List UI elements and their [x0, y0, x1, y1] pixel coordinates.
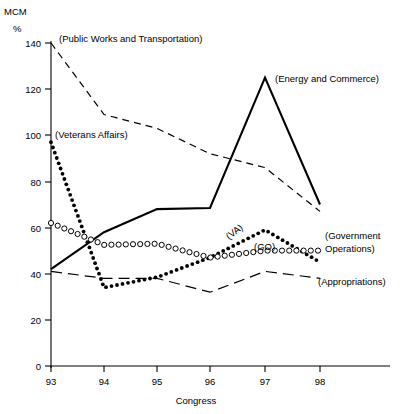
series-label-government-operations-1: (Government [325, 230, 381, 241]
axis-title-mcm: MCM [4, 6, 27, 17]
line-chart: MCM % 140 120 100 80 60 40 20 [0, 0, 402, 414]
x-tick-label: 96 [205, 376, 216, 387]
y-tick-label: 140 [25, 38, 41, 49]
y-tick-label: 120 [25, 84, 41, 95]
y-tick-label: 60 [30, 223, 41, 234]
series-government-operations [48, 220, 320, 260]
x-tick-label: 95 [152, 376, 163, 387]
x-tick-label: 94 [99, 376, 110, 387]
chart-container: MCM % 140 120 100 80 60 40 20 [0, 0, 402, 414]
y-tick-label: 40 [30, 269, 41, 280]
series-label-appropriations: (Appropriations) [318, 276, 386, 287]
y-tick-label: 100 [25, 130, 41, 141]
x-tick-marks [51, 366, 320, 372]
series-label-government-operations-2: Operations) [325, 243, 375, 254]
series-label-veterans-affairs: (Veterans Affairs) [55, 129, 128, 140]
y-tick-label: 80 [30, 177, 41, 188]
y-tick-labels: 140 120 100 80 60 40 20 0 [25, 38, 41, 372]
inline-label-go: (GO) [254, 241, 275, 252]
series-label-public-works: (Public Works and Transportation) [59, 33, 202, 44]
inline-label-va: (VA) [223, 222, 244, 242]
x-tick-label: 98 [315, 376, 326, 387]
series-veterans-affairs [49, 140, 318, 289]
series-appropriations [51, 271, 320, 292]
axis-title-percent: % [13, 23, 22, 34]
series-public-works-and-transportation [51, 43, 320, 211]
series-label-energy-commerce: (Energy and Commerce) [275, 73, 379, 84]
x-tick-label: 93 [46, 376, 57, 387]
y-tick-label: 0 [36, 361, 41, 372]
y-tick-marks [45, 43, 51, 366]
x-tick-label: 97 [260, 376, 271, 387]
x-axis-title: Congress [176, 395, 217, 406]
x-tick-labels: 93 94 95 96 97 98 [46, 376, 326, 387]
y-tick-label: 20 [30, 315, 41, 326]
